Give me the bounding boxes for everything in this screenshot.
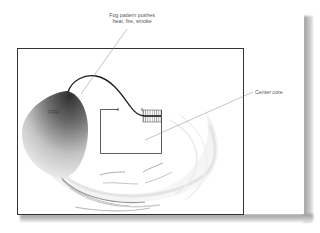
fog-pattern-leader bbox=[81, 29, 127, 94]
fire-label: FIRE bbox=[48, 109, 59, 115]
center-core-label: Center core bbox=[255, 89, 283, 95]
fire-region bbox=[22, 91, 88, 178]
fog-pattern-label-line2: heat, fire, smoke bbox=[98, 18, 166, 24]
fog-pattern-label: Fog pattern pushes heat, fire, smoke bbox=[98, 12, 166, 24]
fog-attack-diagram bbox=[0, 0, 320, 233]
